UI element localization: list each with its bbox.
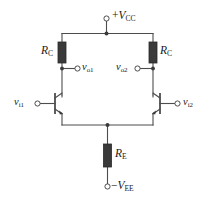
label-resistor-collector-left: RC: [41, 45, 53, 57]
label-supply-negative: −VEE: [111, 180, 134, 192]
supply-positive-symbol: V: [119, 9, 126, 21]
supply-negative-symbol: V: [118, 179, 125, 191]
vi1-symbol: v: [14, 96, 19, 107]
vo1-node-dot: [60, 67, 64, 71]
resistor-collector-left: [58, 42, 66, 63]
vcc-terminal-circle[interactable]: [104, 16, 109, 21]
re-symbol: R: [115, 147, 122, 159]
vcc-node-dot: [105, 32, 109, 36]
q2-collector-slant: [153, 93, 160, 98]
vo2-node-dot: [151, 67, 155, 71]
vo2-symbol: v: [116, 61, 121, 72]
label-output-left: vo1: [82, 62, 93, 73]
vo2-terminal-circle[interactable]: [135, 66, 140, 71]
vi2-symbol: v: [183, 96, 188, 107]
rc-right-subscript: C: [167, 49, 172, 58]
vo1-terminal-circle[interactable]: [75, 66, 80, 71]
re-subscript: E: [122, 152, 126, 161]
label-input-left: vi1: [14, 97, 24, 108]
label-resistor-emitter: RE: [115, 148, 127, 160]
rc-left-symbol: R: [41, 44, 48, 56]
rc-right-symbol: R: [160, 44, 167, 56]
label-resistor-collector-right: RC: [160, 45, 172, 57]
vi2-subscript: i2: [188, 101, 193, 108]
vo2-subscript: o2: [121, 66, 128, 73]
resistor-collector-right: [149, 42, 157, 63]
label-input-right: vi2: [183, 97, 193, 108]
supply-negative-subscript: EE: [125, 184, 134, 193]
vee-terminal-circle[interactable]: [105, 184, 110, 189]
schematic-canvas: +VCC −VEE RC RC RE vo1 vo2 vi1 vi2: [0, 0, 219, 206]
label-supply-positive: +VCC: [112, 10, 135, 22]
vo1-subscript: o1: [87, 66, 94, 73]
vi1-subscript: i1: [19, 101, 24, 108]
vo1-symbol: v: [82, 61, 87, 72]
resistor-emitter: [104, 144, 112, 167]
q1-collector-slant: [55, 93, 62, 98]
emitter-node-dot: [106, 123, 110, 127]
supply-positive-subscript: CC: [126, 14, 136, 23]
rc-left-subscript: C: [48, 49, 53, 58]
vi1-terminal-circle[interactable]: [35, 101, 40, 106]
label-output-right: vo2: [116, 62, 127, 73]
vi2-terminal-circle[interactable]: [175, 101, 180, 106]
